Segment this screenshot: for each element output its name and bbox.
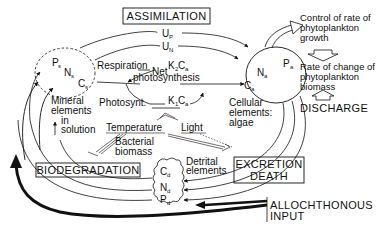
svg-text:d: d bbox=[167, 188, 170, 194]
photosynt-label: Photosynt. bbox=[99, 97, 146, 108]
allochthonous-input-label: ALLOCHTHONOUS INPUT bbox=[270, 199, 373, 222]
svg-text:INPUT: INPUT bbox=[270, 210, 305, 222]
svg-text:solution: solution bbox=[61, 124, 95, 135]
light-label: Light bbox=[181, 122, 203, 133]
algal-pool: P a N a C a bbox=[244, 47, 306, 103]
assimilation-label: ASSIMILATION bbox=[127, 10, 207, 22]
svg-text:a: a bbox=[185, 101, 189, 107]
svg-text:a: a bbox=[290, 64, 294, 70]
biomass-label: biomass bbox=[115, 146, 152, 157]
svg-text:EXCRETION: EXCRETION bbox=[236, 158, 303, 170]
svg-text:growth: growth bbox=[300, 32, 329, 43]
svg-text:biomass: biomass bbox=[300, 81, 336, 92]
factor-arrows bbox=[88, 113, 232, 156]
svg-text:elements: elements bbox=[51, 105, 92, 116]
respiration-label: Respiration bbox=[97, 60, 148, 71]
control-rate-label: Control of rate of phytoplankton growth bbox=[300, 12, 371, 43]
svg-text:P: P bbox=[160, 194, 167, 205]
svg-text:P: P bbox=[169, 34, 173, 40]
k1ca-label: K 1 C a bbox=[168, 95, 189, 107]
detrital-elements-label: elements bbox=[186, 165, 227, 176]
rate-change-label: Rate of change of phytoplankton biomass bbox=[300, 61, 375, 92]
discharge-label: DISCHARGE bbox=[300, 102, 368, 114]
svg-text:s: s bbox=[71, 73, 74, 79]
control-rate-arrow bbox=[265, 21, 303, 48]
assimilation-box: ASSIMILATION bbox=[123, 8, 210, 24]
svg-text:P: P bbox=[283, 58, 290, 69]
uptake-n-label: U N bbox=[162, 41, 173, 53]
temperature-label: Temperature bbox=[106, 122, 163, 133]
svg-text:algae: algae bbox=[229, 117, 254, 128]
svg-text:s: s bbox=[85, 84, 88, 90]
k2ca-label: K 2 C a bbox=[168, 60, 189, 72]
detrital-pool: C d N d P d bbox=[153, 158, 184, 206]
svg-text:a: a bbox=[251, 86, 255, 92]
phytoplankton-nutrient-cycle-diagram: ASSIMILATION U P U N P s N s C s P a N a… bbox=[0, 0, 390, 231]
soluble-pool: P s N s C s bbox=[35, 48, 95, 98]
svg-text:K: K bbox=[168, 95, 175, 106]
recycle-arrows bbox=[23, 82, 53, 160]
svg-text:K: K bbox=[168, 60, 175, 71]
svg-text:N: N bbox=[169, 47, 173, 53]
svg-text:d: d bbox=[167, 200, 170, 206]
mineral-elements-label: Mineral elements in solution bbox=[51, 95, 95, 135]
svg-text:a: a bbox=[264, 73, 268, 79]
down-hollow-arrow bbox=[308, 50, 338, 61]
uptake-p-label: U P bbox=[162, 28, 173, 40]
svg-text:s: s bbox=[58, 63, 61, 69]
svg-text:d: d bbox=[167, 172, 170, 178]
